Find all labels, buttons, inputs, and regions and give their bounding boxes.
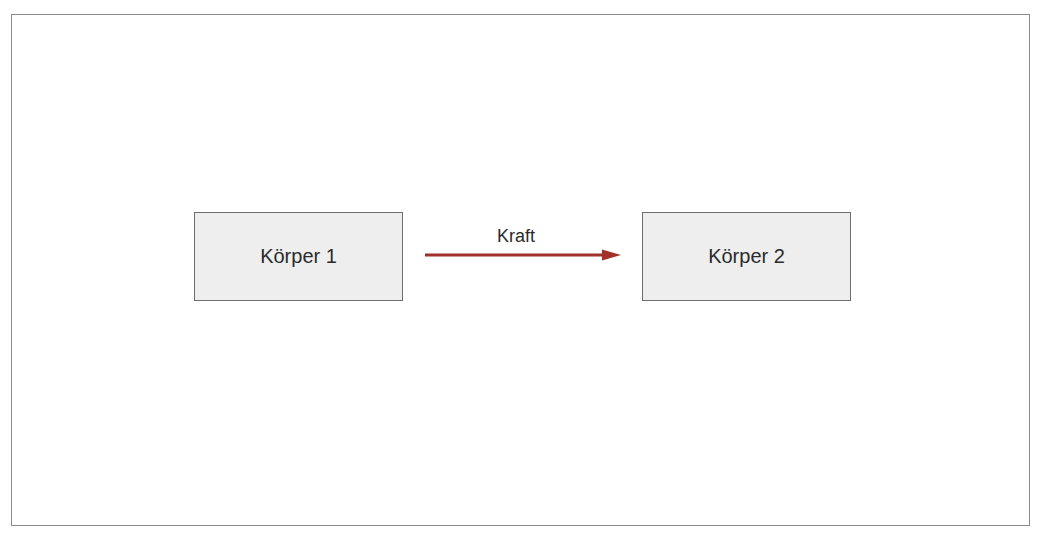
edge-label-kraft: Kraft	[470, 226, 562, 247]
node-koerper-2: Körper 2	[642, 212, 851, 301]
node-koerper-1: Körper 1	[194, 212, 403, 301]
node-label: Körper 1	[260, 245, 337, 268]
diagram-frame	[11, 14, 1030, 526]
node-label: Körper 2	[708, 245, 785, 268]
force-arrow-icon	[424, 246, 624, 264]
